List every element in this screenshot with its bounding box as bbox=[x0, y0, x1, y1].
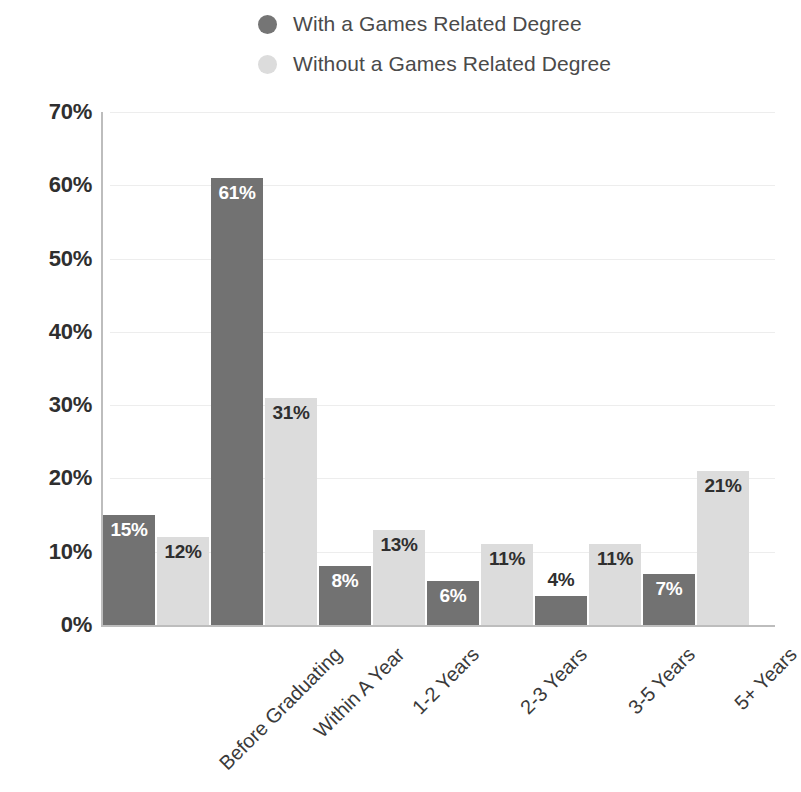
bar-value-label: 7% bbox=[643, 578, 695, 600]
bar: 61% bbox=[211, 178, 263, 625]
bar-value-label: 6% bbox=[427, 585, 479, 607]
x-axis-category-label: 1-2 Years bbox=[408, 643, 484, 719]
x-axis-category-label: 3-5 Years bbox=[624, 643, 700, 719]
gridline bbox=[110, 478, 775, 479]
gridline bbox=[110, 332, 775, 333]
y-axis-tick-label: 30% bbox=[12, 392, 92, 418]
gridline bbox=[110, 405, 775, 406]
x-axis-category-label: 2-3 Years bbox=[516, 643, 592, 719]
y-axis-tick-label: 10% bbox=[12, 539, 92, 565]
bar: 21% bbox=[697, 471, 749, 625]
bar-value-label: 15% bbox=[103, 519, 155, 541]
bar-value-label: 4% bbox=[535, 569, 587, 591]
bar: 6% bbox=[427, 581, 479, 625]
bar: 12% bbox=[157, 537, 209, 625]
bar: 11% bbox=[589, 544, 641, 625]
bar-value-label: 61% bbox=[211, 182, 263, 204]
gridline bbox=[110, 259, 775, 260]
bar-value-label: 21% bbox=[697, 475, 749, 497]
y-axis-tick-label: 40% bbox=[12, 319, 92, 345]
bar: 15% bbox=[103, 515, 155, 625]
y-axis-tick-label: 60% bbox=[12, 172, 92, 198]
y-axis-tick-label: 20% bbox=[12, 465, 92, 491]
y-axis-tick-label: 0% bbox=[12, 612, 92, 638]
x-axis-category-label: 5+ Years bbox=[730, 643, 801, 715]
bar-value-label: 8% bbox=[319, 570, 371, 592]
bar: 11% bbox=[481, 544, 533, 625]
bar-value-label: 31% bbox=[265, 402, 317, 424]
y-axis-tick-label: 70% bbox=[12, 99, 92, 125]
bar-value-label: 11% bbox=[589, 548, 641, 570]
bar-value-label: 12% bbox=[157, 541, 209, 563]
bar: 4% bbox=[535, 596, 587, 625]
bar: 7% bbox=[643, 574, 695, 625]
bar: 8% bbox=[319, 566, 371, 625]
bar: 13% bbox=[373, 530, 425, 625]
bar: 31% bbox=[265, 398, 317, 625]
y-axis-tick-label: 50% bbox=[12, 246, 92, 272]
bar-value-label: 13% bbox=[373, 534, 425, 556]
gridline bbox=[110, 552, 775, 553]
gridline bbox=[110, 185, 775, 186]
bar-value-label: 11% bbox=[481, 548, 533, 570]
gridline bbox=[110, 112, 775, 113]
x-axis-line bbox=[103, 625, 775, 627]
